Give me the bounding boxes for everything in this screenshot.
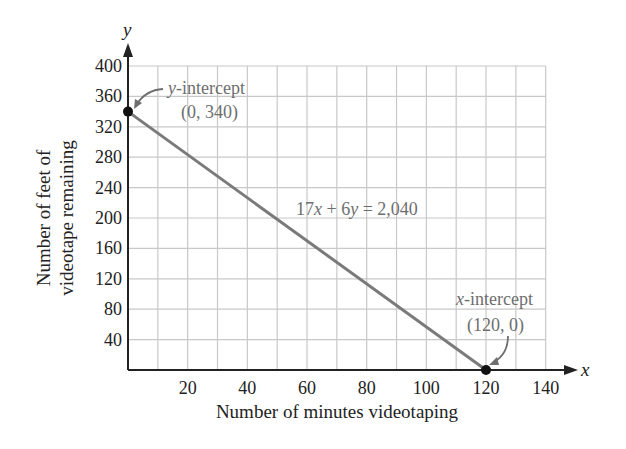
y-axis-label-line1: Number of feet of [33,149,54,286]
x-tick-label: 80 [358,378,376,398]
y-tick-label: 280 [95,147,122,167]
x-intercept-label: x-intercept [455,289,533,309]
x-tick-label: 140 [532,378,559,398]
x-intercept-point [481,365,491,375]
y-tick-label: 80 [104,299,122,319]
chart: x y 20406080100120140 408012016020024028… [0,0,626,449]
x-tick-labels: 20406080100120140 [179,378,560,398]
y-tick-label: 160 [95,238,122,258]
x-tick-label: 100 [413,378,440,398]
y-intercept-label: y-intercept [166,78,245,98]
y-tick-label: 320 [95,117,122,137]
y-axis-symbol: y [121,19,132,40]
x-axis-label: Number of minutes videotaping [216,401,459,422]
x-tick-label: 20 [179,378,197,398]
y-tick-label: 360 [95,86,122,106]
y-axis-arrow-icon [123,43,133,57]
y-tick-label: 40 [104,330,122,350]
x-axis-arrow-icon [564,365,578,375]
y-tick-labels: 4080120160200240280320360400 [95,56,122,350]
x-tick-label: 120 [473,378,500,398]
y-tick-label: 400 [95,56,122,76]
equation-label: 17x + 6y = 2,040 [296,199,418,219]
y-intercept-coords: (0, 340) [181,102,238,123]
x-intercept-coords: (120, 0) [467,315,524,336]
y-intercept-point [123,107,133,117]
y-axis-label-line2: videotape remaining [56,140,77,296]
x-intercept-arrowhead-icon [489,357,499,365]
y-intercept-arrowhead-icon [134,99,142,109]
y-tick-label: 240 [95,178,122,198]
y-tick-label: 200 [95,208,122,228]
y-tick-label: 120 [95,269,122,289]
x-axis-symbol: x [580,359,590,380]
x-tick-label: 60 [298,378,316,398]
x-tick-label: 40 [238,378,256,398]
